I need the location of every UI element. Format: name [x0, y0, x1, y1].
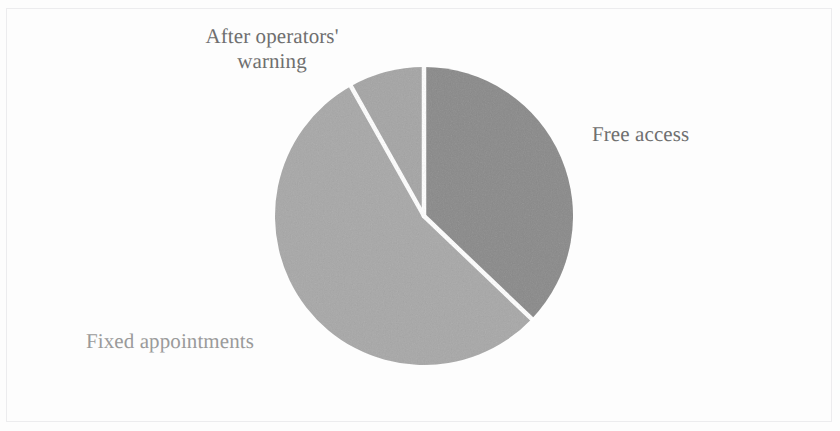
pie-svg: [275, 67, 573, 365]
pie-label-fixed-appointments: Fixed appointments: [86, 329, 254, 354]
pie-chart: [275, 67, 573, 365]
pie-label-after-operators-warning: After operators' warning: [168, 24, 376, 74]
pie-grain-overlay: [275, 67, 573, 365]
pie-chart-figure: After operators' warning Free access Fix…: [0, 0, 840, 431]
chart-stage: After operators' warning Free access Fix…: [0, 0, 840, 431]
pie-label-free-access: Free access: [592, 122, 689, 147]
